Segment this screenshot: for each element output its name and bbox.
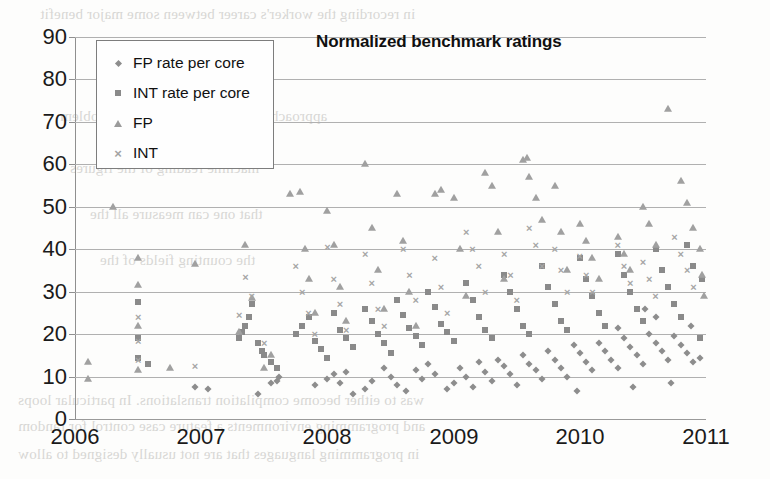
data-point (684, 350, 691, 357)
data-point (482, 369, 489, 376)
legend-item-label: INT (133, 144, 158, 162)
data-point (642, 305, 649, 312)
data-point (664, 105, 672, 112)
data-point (588, 253, 596, 260)
data-point: × (506, 271, 514, 279)
data-point: × (677, 250, 685, 258)
data-point (602, 323, 608, 329)
data-point (684, 242, 690, 248)
data-point (462, 292, 470, 299)
data-point (526, 331, 532, 337)
y-axis-tick-label: 20 (43, 321, 67, 347)
data-point: × (582, 271, 590, 279)
y-axis-tick-label: 40 (43, 236, 67, 262)
legend-item-diamond[interactable]: FP rate per core (107, 48, 273, 78)
y-axis-tick (69, 122, 75, 123)
data-point (583, 358, 590, 365)
data-point (475, 358, 482, 365)
data-point: × (525, 224, 533, 232)
data-point (450, 379, 457, 386)
legend-item-square[interactable]: INT rate per core (107, 78, 273, 108)
data-point (494, 228, 502, 235)
data-point (564, 373, 571, 380)
data-point: × (443, 309, 451, 317)
data-point (488, 377, 495, 384)
data-point: × (689, 283, 697, 291)
data-point (301, 245, 309, 252)
data-point (538, 215, 546, 222)
y-axis-labels: 0102030405060708090 (0, 37, 67, 419)
data-point: × (134, 356, 142, 364)
data-point (519, 352, 526, 359)
data-point: × (513, 296, 521, 304)
y-axis-tick (69, 292, 75, 293)
data-point: × (620, 262, 628, 270)
y-axis-tick (69, 377, 75, 378)
data-point (293, 331, 299, 337)
data-point (305, 275, 313, 282)
data-point (646, 331, 653, 338)
data-point (368, 377, 375, 384)
data-point (595, 339, 602, 346)
data-point (336, 379, 343, 386)
data-point (557, 365, 564, 372)
data-point: × (645, 275, 653, 283)
data-point (134, 281, 142, 288)
data-point: × (626, 279, 634, 287)
data-point (523, 154, 531, 161)
data-point (311, 381, 318, 388)
data-point: × (134, 313, 142, 321)
y-axis-tick-label: 80 (43, 66, 67, 92)
data-point (299, 323, 305, 329)
y-axis-tick (69, 419, 75, 420)
data-point (254, 390, 261, 397)
data-point (451, 338, 457, 344)
data-point (134, 366, 142, 373)
diamond-marker-icon (107, 61, 129, 66)
square-marker-icon (107, 90, 129, 96)
data-point (601, 348, 608, 355)
data-point (276, 373, 283, 380)
data-point (249, 301, 255, 307)
data-point: × (431, 254, 439, 262)
data-point (620, 249, 628, 256)
data-point (246, 314, 252, 320)
chart-title: Normalized benchmark ratings (316, 32, 562, 52)
data-point (652, 314, 659, 321)
data-point (520, 323, 526, 329)
data-point (438, 321, 444, 327)
data-point (574, 388, 581, 395)
data-point (260, 364, 268, 371)
data-point (400, 312, 406, 318)
data-point (469, 384, 476, 391)
data-point (614, 324, 621, 331)
data-point (677, 341, 684, 348)
x-marker-icon: × (107, 149, 129, 158)
data-point (665, 284, 671, 290)
data-point (361, 160, 369, 167)
data-point (349, 390, 356, 397)
data-point (296, 188, 304, 195)
data-point (331, 310, 337, 316)
data-point: × (563, 288, 571, 296)
chart-legend[interactable]: FP rate per coreINT rate per coreFP×INT (96, 40, 274, 169)
data-point (690, 263, 696, 269)
data-point (134, 253, 142, 260)
data-point: × (305, 309, 313, 317)
y-axis-tick-label: 70 (43, 109, 67, 135)
data-point (444, 329, 450, 335)
data-point: × (248, 292, 256, 300)
data-point: × (399, 245, 407, 253)
legend-item-triangle[interactable]: FP (107, 108, 273, 138)
data-point: × (588, 288, 596, 296)
x-axis-tick-label: 2006 (51, 424, 100, 450)
data-point (481, 169, 489, 176)
data-point (596, 310, 602, 316)
data-point (589, 367, 596, 374)
data-point: × (652, 292, 660, 300)
y-axis-tick-label: 30 (43, 279, 67, 305)
legend-item-x[interactable]: ×INT (107, 138, 273, 168)
data-point (570, 341, 577, 348)
data-point (432, 304, 438, 310)
data-point: × (469, 245, 477, 253)
